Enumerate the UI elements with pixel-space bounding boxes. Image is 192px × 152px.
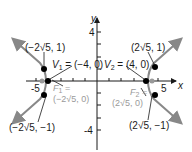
focus-f2-point xyxy=(150,79,155,84)
label-f1-coord: (−2√5, 0) xyxy=(53,95,89,104)
x-tick-neg5: -5 xyxy=(31,84,40,94)
label-upper-right: (2√5, 1) xyxy=(131,43,165,53)
label-v1: V1 = (−4, 0) xyxy=(52,60,103,71)
point-lower-right xyxy=(152,92,158,98)
x-tick-5: 5 xyxy=(161,84,167,94)
label-v2: V2 = (4, 0) xyxy=(104,60,149,71)
point-upper-left xyxy=(41,66,47,72)
x-axis-label: x xyxy=(178,81,183,91)
vertex-v2-point xyxy=(143,78,149,84)
point-lower-left xyxy=(41,92,47,98)
y-axis-label: y xyxy=(91,14,96,24)
label-upper-left: (−2√5, 1) xyxy=(25,43,65,53)
y-axis xyxy=(97,18,101,150)
label-f2-coord: (2√5, 0) xyxy=(112,99,143,108)
point-upper-right xyxy=(152,64,158,70)
y-tick-neg4: -4 xyxy=(84,126,93,136)
label-lower-right: (2√5, −1) xyxy=(129,121,169,131)
label-f1: F1 = xyxy=(53,84,70,94)
label-lower-left: (−2√5, −1) xyxy=(9,123,55,133)
focus-f1-point xyxy=(40,79,45,84)
y-tick-4: 4 xyxy=(89,28,95,38)
vertex-v1-point xyxy=(45,78,51,84)
label-f2: F2 = xyxy=(130,88,147,98)
